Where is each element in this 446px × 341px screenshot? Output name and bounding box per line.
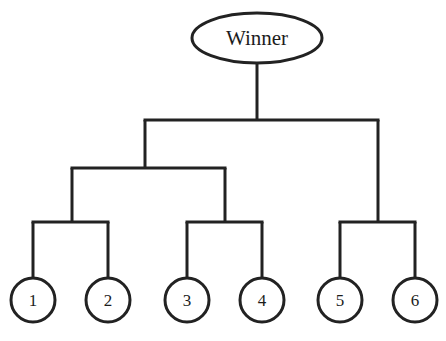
- seed-label-2: 2: [104, 291, 113, 310]
- seed-node-3: 3: [165, 278, 209, 322]
- seed-label-6: 6: [411, 291, 420, 310]
- seed-label-5: 5: [336, 291, 345, 310]
- winner-node-label: Winner: [226, 26, 288, 50]
- seed-node-2: 2: [86, 278, 130, 322]
- seed-label-1: 1: [29, 291, 38, 310]
- seed-label-3: 3: [183, 291, 192, 310]
- connector-lines: [32, 63, 417, 279]
- tournament-bracket-diagram: Winner 1 2 3 4 5: [0, 0, 446, 341]
- seed-node-4: 4: [240, 278, 284, 322]
- winner-node: Winner: [192, 13, 322, 63]
- seed-node-1: 1: [11, 278, 55, 322]
- seed-node-6: 6: [393, 278, 437, 322]
- seed-nodes: 1 2 3 4 5 6: [11, 278, 437, 322]
- bracket-canvas: Winner 1 2 3 4 5: [0, 0, 446, 341]
- seed-node-5: 5: [318, 278, 362, 322]
- seed-label-4: 4: [258, 291, 267, 310]
